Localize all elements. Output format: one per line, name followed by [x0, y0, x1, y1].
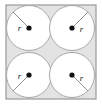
- center-dot-bottom-right: [69, 72, 74, 77]
- circle-group-top-left: r: [7, 6, 52, 51]
- radius-label-top-right: r: [80, 24, 84, 34]
- radius-label-bottom-left: r: [18, 71, 22, 81]
- center-dot-top-right: [69, 25, 74, 30]
- circle-group-top-right: r: [50, 6, 95, 51]
- center-dot-bottom-left: [26, 72, 31, 77]
- circle-group-bottom-right: r: [50, 53, 95, 98]
- four-circles-in-square-diagram: r r r r: [0, 0, 102, 106]
- radius-label-bottom-right: r: [80, 73, 84, 83]
- radius-label-top-left: r: [18, 23, 22, 33]
- center-dot-top-left: [26, 25, 31, 30]
- circle-group-bottom-left: r: [7, 53, 52, 98]
- geometry-figure: r r r r: [0, 0, 102, 106]
